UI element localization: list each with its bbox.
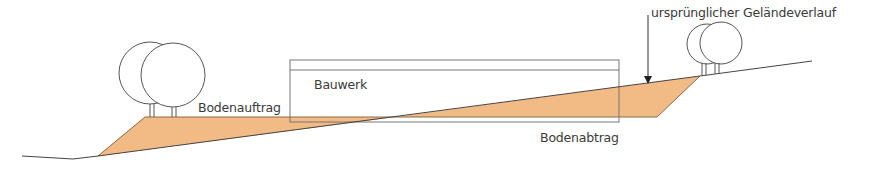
original-terrain-label: ursprünglicher Geländeverlauf [651, 5, 836, 20]
arrow-down-icon [644, 15, 652, 84]
cut-label: Bodenabtrag [540, 130, 619, 145]
terrain-diagram [0, 0, 869, 169]
building-label: Bauwerk [314, 77, 367, 92]
tree-left-front [141, 43, 205, 117]
fill-label: Bodenauftrag [198, 100, 281, 115]
